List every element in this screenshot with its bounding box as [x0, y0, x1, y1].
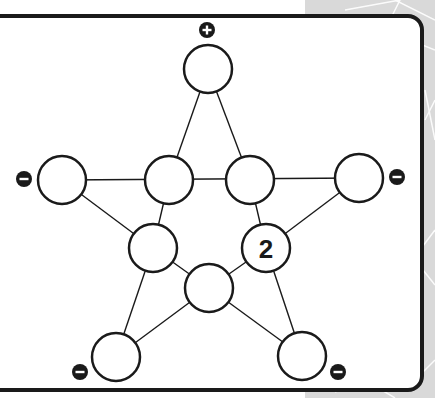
nodes: 2	[38, 45, 383, 381]
node-upper-right[interactable]	[335, 154, 383, 202]
minus-badge-icon	[330, 364, 346, 380]
node-inner-left[interactable]	[145, 156, 193, 204]
node-center-bottom[interactable]	[185, 264, 233, 312]
minus-badge-icon	[72, 364, 88, 380]
node-upper-left[interactable]	[38, 156, 86, 204]
minus-badge-icon	[16, 171, 32, 187]
connector-lines	[62, 69, 359, 357]
plus-badge-icon	[199, 22, 215, 38]
node-inner-right[interactable]	[226, 156, 274, 204]
node-bottom-left[interactable]	[92, 333, 140, 381]
node-top[interactable]	[184, 45, 232, 93]
node-mid-right: 2	[242, 224, 290, 272]
minus-badge-icon	[389, 169, 405, 185]
pentagram-puzzle: 2	[0, 0, 435, 398]
node-mid-left[interactable]	[129, 224, 177, 272]
node-bottom-right[interactable]	[278, 332, 326, 380]
node-mid-right-value: 2	[259, 234, 273, 264]
